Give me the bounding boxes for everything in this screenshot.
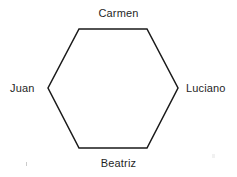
hexagon-outline: [48, 29, 178, 148]
node-label-juan: Juan: [10, 82, 34, 95]
node-label-luciano: Luciano: [186, 82, 226, 95]
scan-artifact-speck-right: [212, 154, 215, 158]
diagram-canvas: Carmen Luciano Beatriz Juan: [0, 0, 237, 177]
node-label-beatriz: Beatriz: [0, 157, 237, 170]
node-label-carmen: Carmen: [0, 7, 237, 20]
scan-artifact-speck-left: [26, 162, 27, 166]
